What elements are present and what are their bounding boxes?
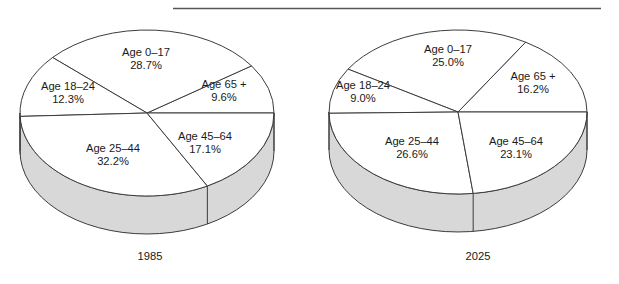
pie-slice-label-age-0-17: Age 0–17 bbox=[424, 43, 472, 55]
pie-slice-label-age-25-44: Age 25–44 bbox=[86, 142, 140, 154]
pie-slice-label-age-18-24-percent: 9.0% bbox=[350, 92, 376, 104]
pie-slice-label-age-45-64: Age 45–64 bbox=[178, 130, 232, 142]
pie-slice-label-age-25-44: Age 25–44 bbox=[385, 135, 439, 147]
pie-slice-label-age-0-17-percent: 28.7% bbox=[130, 59, 162, 71]
pie-slice-label-age-0-17-percent: 25.0% bbox=[432, 56, 464, 68]
pie-slice-label-age-65-percent: 9.6% bbox=[211, 91, 237, 103]
pie-slice-label-age-25-44-percent: 32.2% bbox=[97, 155, 129, 167]
pie-slice-label-age-65: Age 65 + bbox=[510, 70, 555, 82]
year-label-1985: 1985 bbox=[138, 250, 163, 262]
pie-chart-1985: Age 65 +9.6%Age 0–1728.7%Age 18–2412.3%A… bbox=[20, 30, 274, 234]
pie-slice-label-age-45-64: Age 45–64 bbox=[489, 135, 543, 147]
pie-chart-figure: Age 65 +9.6%Age 0–1728.7%Age 18–2412.3%A… bbox=[0, 0, 619, 284]
pie-slice-label-age-45-64-percent: 17.1% bbox=[189, 143, 221, 155]
pie-slice-label-age-65: Age 65 + bbox=[201, 78, 246, 90]
pie-slice-label-age-18-24: Age 18–24 bbox=[41, 80, 95, 92]
pie-slice-label-age-0-17: Age 0–17 bbox=[122, 46, 170, 58]
figure-canvas: Age 65 +9.6%Age 0–1728.7%Age 18–2412.3%A… bbox=[0, 0, 619, 284]
year-label-2025: 2025 bbox=[466, 250, 491, 262]
pie-slice-label-age-65-percent: 16.2% bbox=[517, 83, 549, 95]
pie-slice-label-age-45-64-percent: 23.1% bbox=[500, 148, 532, 160]
pie-slice-label-age-25-44-percent: 26.6% bbox=[396, 148, 428, 160]
pie-slice-label-age-18-24-percent: 12.3% bbox=[52, 93, 84, 105]
pie-slice-label-age-18-24: Age 18–24 bbox=[336, 79, 390, 91]
pie-chart-2025: Age 65 +16.2%Age 0–1725.0%Age 18–249.0%A… bbox=[329, 30, 587, 232]
